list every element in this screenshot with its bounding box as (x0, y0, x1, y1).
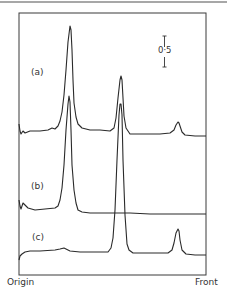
front-label: Front (195, 277, 218, 287)
trace-b (19, 96, 206, 214)
trace-c-label: (c) (32, 232, 44, 242)
plot-frame (19, 13, 206, 275)
trace-a-label: (a) (31, 67, 44, 77)
scale-bar-label: 0·5 (158, 45, 172, 55)
origin-label: Origin (7, 277, 34, 287)
trace-a (19, 26, 206, 136)
densitometer-chart (0, 0, 227, 292)
trace-c (19, 104, 206, 260)
trace-b-label: (b) (31, 181, 44, 191)
